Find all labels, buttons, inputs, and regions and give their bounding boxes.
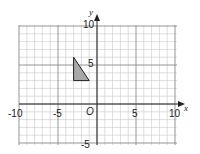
origin-label: O <box>86 106 94 117</box>
y-tick-label: 10 <box>83 19 95 30</box>
x-tick-label: 10 <box>169 108 181 119</box>
x-axis-label: x <box>183 103 188 113</box>
x-tick-label: -5 <box>53 108 62 119</box>
minor-grid-lines <box>19 25 177 145</box>
y-tick-label: -5 <box>81 139 90 150</box>
x-tick-label: -10 <box>8 108 23 119</box>
coordinate-grid: -10 -5 5 10 10 5 -5 O y x <box>0 0 200 154</box>
y-axis-label: y <box>88 7 93 17</box>
x-tick-label: 5 <box>132 108 138 119</box>
y-tick-label: 5 <box>88 58 94 69</box>
